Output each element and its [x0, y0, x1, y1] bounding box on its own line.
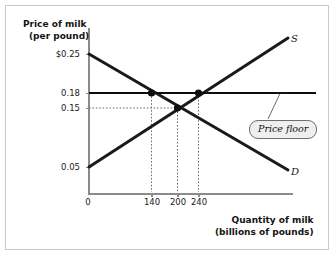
price-floor-callout: Price floor [249, 120, 317, 139]
y-tick-mark-005 [86, 167, 90, 169]
y-tick-label-025: $0.25 [36, 49, 80, 59]
y-axis-title-line2: (per pound) [23, 30, 89, 42]
y-tick-label-005: 0.05 [36, 162, 80, 172]
x-axis-title-line2: (billions of pounds) [215, 226, 314, 238]
x-tick-label-140: 140 [139, 197, 165, 207]
x-axis-title: Quantity of milk (billions of pounds) [215, 214, 314, 238]
x-tick-label-240: 240 [186, 197, 212, 207]
x-axis-title-line1: Quantity of milk [232, 215, 314, 225]
y-tick-label-015: 0.15 [36, 103, 80, 113]
figure-container: $0.25 0.18 0.15 0.05 0 140 200 240 Price… [0, 0, 336, 257]
y-tick-mark-015 [86, 108, 90, 110]
y-tick-mark-018 [86, 93, 90, 95]
x-axis-line [88, 193, 293, 195]
y-axis-title: Price of milk (per pound) [23, 18, 89, 42]
y-tick-label-018: 0.18 [36, 88, 80, 98]
demand-curve-label: D [291, 166, 299, 177]
x-tick-label-0: 0 [75, 197, 101, 207]
y-tick-mark-025 [86, 54, 90, 56]
supply-curve-label: S [291, 33, 298, 44]
y-axis-title-line1: Price of milk [23, 19, 86, 29]
